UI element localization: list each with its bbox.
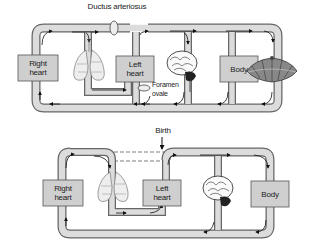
body-label-after: Body xyxy=(251,190,289,199)
foramen-ovale-label: Foramen ovale xyxy=(152,80,186,98)
birth-label: Birth xyxy=(148,126,178,135)
foramen-ovale-marker xyxy=(138,85,150,91)
right-heart-label: Right heart xyxy=(18,59,58,77)
body-label: Body xyxy=(220,65,258,74)
left-heart-label-after: Left heart xyxy=(143,184,181,202)
left-heart-label: Left heart xyxy=(116,60,154,78)
ductus-arteriosus-label: Ductus arteriosus xyxy=(82,2,152,11)
ductus-arteriosus-marker xyxy=(110,21,118,35)
right-heart-label-after: Right heart xyxy=(43,184,83,202)
closed-ductus-dashes xyxy=(108,152,166,161)
